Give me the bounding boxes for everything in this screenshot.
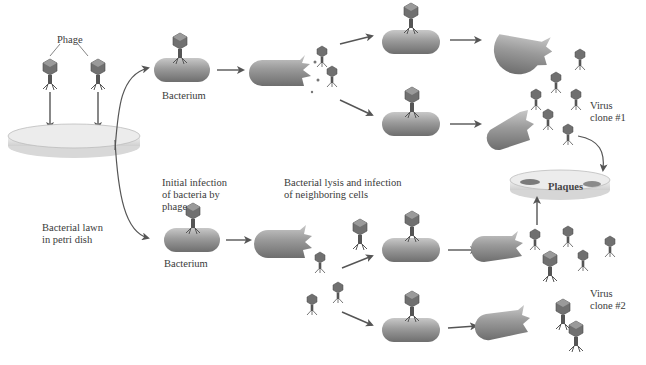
label-initial-infection-2: of bacteria by: [162, 189, 220, 201]
label-virus-clone1-2: clone #1: [590, 112, 626, 124]
label-bacterium-top: Bacterium: [162, 90, 206, 102]
lysing-bacterium-upper-2: [487, 110, 534, 150]
label-bacterium-bottom: Bacterium: [164, 258, 208, 270]
bacterium-upper-2: [382, 87, 440, 136]
label-phage: Phage: [57, 34, 83, 46]
lysing-bacterium-top: [249, 46, 337, 93]
label-initial-infection-3: phage: [162, 201, 187, 213]
label-plaques: Plaques: [548, 181, 583, 193]
left-phage: [43, 44, 105, 128]
bacterium-lower-1: [382, 211, 440, 262]
label-lysis-1: Bacterial lysis and infection: [284, 177, 402, 189]
label-initial-infection-1: Initial infection: [162, 177, 227, 189]
lysing-bacterium-lower-2: [475, 305, 530, 340]
bacterium-lower-2: [382, 291, 440, 342]
lysing-bacterium-lower-1: [471, 231, 523, 262]
lysing-bacterium-bottom: [254, 219, 367, 315]
label-bacterial-lawn-2: in petri dish: [42, 234, 92, 246]
lysing-bacterium-upper-1: [490, 28, 555, 80]
label-virus-clone2-2: clone #2: [590, 300, 626, 312]
bacterium-top: [154, 33, 210, 82]
label-virus-clone2-1: Virus: [590, 288, 613, 300]
label-bacterial-lawn-1: Bacterial lawn: [42, 222, 103, 234]
petri-dish-left: [8, 124, 140, 158]
label-virus-clone1-1: Virus: [590, 100, 613, 112]
bacterium-upper-1: [382, 3, 440, 54]
label-lysis-2: of neighboring cells: [284, 189, 368, 201]
